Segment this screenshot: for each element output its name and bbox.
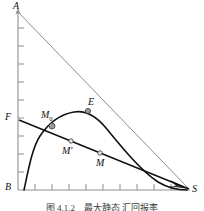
label-point-m: M xyxy=(96,158,104,168)
point-marker-m-prime xyxy=(69,139,73,143)
point-marker-e xyxy=(85,108,90,113)
diagram-canvas xyxy=(0,0,204,211)
label-point-s: S xyxy=(192,184,197,194)
figure-caption: 图 4.1.2 最大静态 汇回报率 xyxy=(0,201,204,211)
label-point-m0: M0 xyxy=(41,110,53,123)
point-marker-m0 xyxy=(49,123,55,129)
vertical-axis-ticks xyxy=(18,28,24,172)
point-marker-m xyxy=(98,151,102,155)
label-point-a: A xyxy=(13,1,19,11)
horizontal-axis-ticks xyxy=(35,184,171,190)
label-point-m-prime: M′ xyxy=(62,146,73,156)
figure-container: A B S F M0 E M′ M 图 4.1.2 最大静态 汇回报率 xyxy=(0,0,204,211)
label-point-b: B xyxy=(5,182,11,192)
label-point-f: F xyxy=(5,112,11,122)
label-point-e: E xyxy=(88,97,94,107)
